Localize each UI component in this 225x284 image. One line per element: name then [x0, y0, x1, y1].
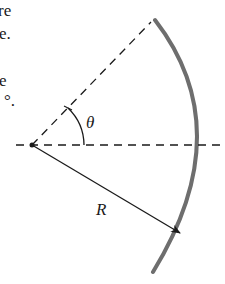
angle-arc — [68, 108, 84, 145]
angle-tick — [64, 106, 72, 110]
radius-label: R — [95, 200, 107, 219]
mirror-arc — [153, 20, 197, 272]
mirror-diagram: θ R — [0, 0, 225, 284]
radius-arrow — [32, 145, 180, 233]
center-point — [30, 143, 35, 148]
angle-label: θ — [86, 113, 94, 132]
